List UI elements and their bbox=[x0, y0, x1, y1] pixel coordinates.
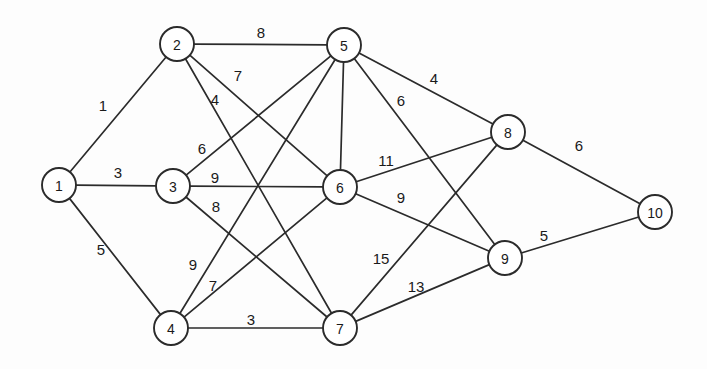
edge-5-6[interactable] bbox=[340, 62, 343, 170]
edge-weight-8-10: 6 bbox=[575, 137, 583, 154]
node-10[interactable]: 10 bbox=[638, 195, 672, 229]
node-label-7: 7 bbox=[336, 321, 344, 337]
node-4[interactable]: 4 bbox=[154, 311, 188, 345]
node-8[interactable]: 8 bbox=[491, 115, 525, 149]
node-label-8: 8 bbox=[504, 125, 512, 141]
graph-diagram-canvas: 12345678910 13587469897364119151365 bbox=[0, 0, 707, 369]
node-5[interactable]: 5 bbox=[327, 28, 361, 62]
node-label-4: 4 bbox=[167, 321, 175, 337]
edge-weight-2-7: 4 bbox=[211, 91, 219, 108]
graph-svg: 12345678910 13587469897364119151365 bbox=[0, 0, 707, 369]
edge-2-5[interactable] bbox=[194, 44, 327, 45]
edge-weight-4-7: 3 bbox=[247, 311, 255, 328]
edge-weight-7-9: 13 bbox=[408, 278, 425, 295]
edge-3-5[interactable] bbox=[186, 56, 331, 175]
edge-6-9[interactable] bbox=[356, 194, 490, 252]
edge-weight-9-10: 5 bbox=[540, 227, 548, 244]
edge-weight-3-6: 9 bbox=[211, 169, 219, 186]
node-label-6: 6 bbox=[336, 180, 344, 196]
edge-weight-2-5: 8 bbox=[257, 24, 265, 41]
edge-weight-4-5: 9 bbox=[189, 256, 197, 273]
node-6[interactable]: 6 bbox=[323, 170, 357, 204]
node-label-2: 2 bbox=[173, 37, 181, 53]
edge-weight-1-3: 3 bbox=[114, 164, 122, 181]
edge-weight-1-4: 5 bbox=[97, 241, 105, 258]
edge-5-9[interactable] bbox=[354, 59, 495, 245]
node-label-5: 5 bbox=[340, 38, 348, 54]
edge-1-3[interactable] bbox=[76, 185, 156, 186]
node-9[interactable]: 9 bbox=[488, 241, 522, 275]
node-label-9: 9 bbox=[501, 251, 509, 267]
edge-weight-5-6: 6 bbox=[397, 92, 405, 109]
node-label-3: 3 bbox=[169, 179, 177, 195]
node-2[interactable]: 2 bbox=[160, 27, 194, 61]
node-7[interactable]: 7 bbox=[323, 311, 357, 345]
node-3[interactable]: 3 bbox=[156, 169, 190, 203]
edge-weight-5-8: 4 bbox=[430, 70, 438, 87]
edge-weight-1-2: 1 bbox=[99, 97, 107, 114]
edge-weight-7-8: 15 bbox=[373, 250, 390, 267]
edge-1-2[interactable] bbox=[70, 57, 166, 172]
edge-weight-3-5: 6 bbox=[198, 140, 206, 157]
edge-weight-4-6: 7 bbox=[209, 277, 217, 294]
edge-weight-3-7: 8 bbox=[212, 198, 220, 215]
node-1[interactable]: 1 bbox=[42, 168, 76, 202]
edge-weight-6-9: 9 bbox=[397, 189, 405, 206]
edge-weight-2-6: 7 bbox=[234, 67, 242, 84]
node-label-1: 1 bbox=[55, 178, 63, 194]
edge-1-4[interactable] bbox=[69, 198, 160, 314]
edge-weight-6-8: 11 bbox=[378, 152, 394, 169]
edge-5-8[interactable] bbox=[359, 53, 493, 124]
node-label-10: 10 bbox=[647, 205, 663, 221]
